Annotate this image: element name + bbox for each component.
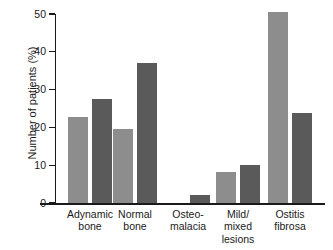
y-axis-tick-label: 20 xyxy=(6,122,46,133)
x-axis-tick-label: Ostitis fibrosa xyxy=(252,208,328,233)
bar xyxy=(240,165,260,203)
bar xyxy=(113,129,133,203)
y-axis-tick-label: 50 xyxy=(6,9,46,20)
bar xyxy=(190,195,210,203)
bar xyxy=(137,63,157,203)
y-axis-tick-label: 40 xyxy=(6,46,46,57)
bar xyxy=(92,99,112,203)
bar xyxy=(268,12,288,203)
y-axis-tick-label: 10 xyxy=(6,160,46,171)
bar xyxy=(68,117,88,203)
bar xyxy=(216,172,236,203)
plot-area xyxy=(56,14,325,203)
bar-chart: Number of patients (%) 01020304050 Adyna… xyxy=(0,0,333,250)
bar xyxy=(292,113,312,203)
x-axis-line xyxy=(40,203,325,205)
y-axis-tick-label: 30 xyxy=(6,84,46,95)
